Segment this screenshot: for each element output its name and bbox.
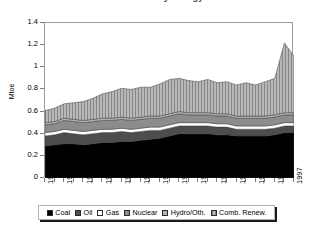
y-axis-tick-label: 0.4: [28, 129, 38, 137]
legend-label: Hydro/Oth.: [171, 209, 206, 217]
x-axis-tick-label: 1975: [86, 167, 94, 184]
x-axis-tick-label: 1977: [105, 167, 113, 184]
y-axis-tick-label: 0.2: [28, 151, 38, 159]
x-axis-tick-mark: [274, 178, 275, 182]
x-axis-tick-label: 1987: [200, 167, 208, 184]
legend-swatch-icon: [75, 210, 81, 216]
series-area-comb-renew: [45, 43, 294, 123]
chart-title: Total Primary Energy: [0, 0, 313, 4]
x-axis-tick-label: 1989: [220, 167, 228, 184]
y-axis-tick-label: 0.8: [28, 84, 38, 92]
plot-area: [44, 22, 293, 177]
x-axis-tick-mark: [255, 178, 256, 182]
y-axis-tick-label: 0.6: [28, 107, 38, 115]
legend-entry[interactable]: Nuclear: [124, 209, 157, 217]
legend-swatch-icon: [97, 210, 103, 216]
legend-swatch-icon: [162, 210, 168, 216]
legend-label: Nuclear: [133, 209, 158, 217]
x-axis-tick-mark: [159, 178, 160, 182]
x-axis-tick-mark: [236, 178, 237, 182]
x-axis-tick-label: 1983: [162, 167, 170, 184]
legend-entry[interactable]: Hydro/Oth.: [162, 209, 205, 217]
plot-svg: [45, 23, 294, 178]
x-axis-tick-mark: [293, 178, 294, 182]
x-axis-tick-mark: [121, 178, 122, 182]
x-axis-tick-mark: [44, 178, 45, 182]
x-axis: 1971197319751977197919811983198519871989…: [44, 178, 293, 208]
x-axis-tick-label: 1985: [181, 167, 189, 184]
chart-legend: CoalOilGasNuclearHydro/Oth.Comb. Renew.: [38, 205, 275, 220]
y-axis-tick-label: 1.4: [28, 18, 38, 26]
stacked-area-chart: Total Primary Energy Mtoe 00.20.40.60.81…: [0, 0, 313, 232]
legend-swatch-icon: [211, 210, 217, 216]
y-axis-tick-label: 1: [34, 62, 38, 70]
y-axis-title: Mtoe: [8, 72, 15, 112]
x-axis-tick-label: 1995: [277, 167, 285, 184]
legend-entry[interactable]: Oil: [75, 209, 92, 217]
x-axis-tick-label: 1973: [66, 167, 74, 184]
x-axis-tick-label: 1979: [124, 167, 132, 184]
x-axis-tick-mark: [101, 178, 102, 182]
x-axis-tick-label: 1981: [143, 167, 151, 184]
y-axis-tick-label: 1.2: [28, 40, 38, 48]
legend-label: Coal: [55, 209, 70, 217]
x-axis-tick-mark: [178, 178, 179, 182]
x-axis-tick-mark: [63, 178, 64, 182]
legend-swatch-icon: [124, 210, 130, 216]
legend-label: Gas: [106, 209, 119, 217]
x-axis-tick-mark: [82, 178, 83, 182]
x-axis-tick-mark: [216, 178, 217, 182]
y-axis: Mtoe 00.20.40.60.811.21.4: [0, 0, 44, 199]
legend-entry[interactable]: Coal: [47, 209, 70, 217]
legend-entry[interactable]: Gas: [97, 209, 119, 217]
x-axis-tick-mark: [140, 178, 141, 182]
legend-swatch-icon: [47, 210, 53, 216]
x-axis-tick-label: 1997: [296, 167, 304, 184]
x-axis-tick-label: 1971: [47, 167, 55, 184]
legend-entry[interactable]: Comb. Renew.: [211, 209, 267, 217]
y-axis-tick-label: 0: [34, 173, 38, 181]
x-axis-tick-label: 1993: [258, 167, 266, 184]
legend-label: Oil: [84, 209, 93, 217]
x-axis-tick-label: 1991: [239, 167, 247, 184]
legend-label: Comb. Renew.: [219, 209, 266, 217]
